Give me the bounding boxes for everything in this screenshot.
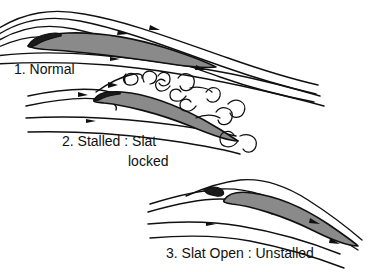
streamline-separation <box>96 74 142 92</box>
vortex-swirl <box>180 99 196 111</box>
vortex-swirl <box>228 100 245 117</box>
vortex-swirl <box>143 71 157 84</box>
arrow-marker <box>149 25 160 30</box>
vortex-swirl <box>216 108 232 125</box>
panel-slat-open: 3. Slat Open : Unstalled <box>148 180 362 268</box>
arrow-marker <box>108 82 118 88</box>
vortex-swirl <box>190 87 212 92</box>
caption-panel-stalled-line2: locked <box>128 153 168 169</box>
caption-panel-slat-open: 3. Slat Open : Unstalled <box>166 245 314 261</box>
caption-panel-normal: 1. Normal <box>14 61 75 77</box>
vortex-trailing-edge <box>240 135 256 152</box>
figure-root: 1. Normal <box>0 0 376 272</box>
airfoil-slat-element <box>204 187 224 196</box>
caption-panel-stalled-line1: 2. Stalled : Slat <box>62 133 156 149</box>
arrow-marker <box>86 119 96 123</box>
panel-stalled: 2. Stalled : Slat locked <box>26 71 256 169</box>
arrow-marker <box>78 92 88 97</box>
airfoil-slat-diagram: 1. Normal <box>0 0 376 272</box>
